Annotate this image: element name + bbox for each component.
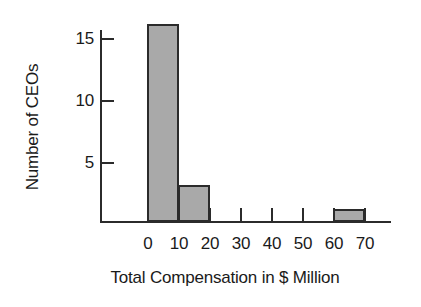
y-tick-label-10: 10 [56, 92, 94, 109]
x-tick-50 [302, 208, 304, 221]
y-axis-line [100, 30, 102, 223]
y-axis-title: Number of CEOs [24, 47, 42, 207]
chart-page: 15 10 5 0 10 20 30 40 50 60 70 Number of… [0, 0, 421, 307]
histogram-plot-area: 15 10 5 0 10 20 30 40 50 60 70 Number of… [0, 0, 421, 307]
x-tick-30 [240, 208, 242, 221]
bar-10-20 [178, 185, 210, 222]
y-tick-label-5: 5 [56, 154, 94, 171]
bar-60-70 [333, 209, 365, 222]
y-tick-label-15-wrap: 15 [56, 30, 94, 47]
x-tick-label-70: 70 [345, 235, 385, 253]
y-tick-10 [101, 100, 114, 102]
y-tick-label-10-wrap: 10 [56, 92, 94, 109]
x-tick-40 [271, 208, 273, 221]
bar-0-10 [147, 24, 179, 222]
x-axis-title: Total Compensation in $ Million [60, 268, 390, 287]
y-tick-5 [101, 162, 114, 164]
y-tick-15 [101, 38, 114, 40]
y-tick-label-5-wrap: 5 [56, 154, 94, 171]
y-tick-label-15: 15 [56, 30, 94, 47]
